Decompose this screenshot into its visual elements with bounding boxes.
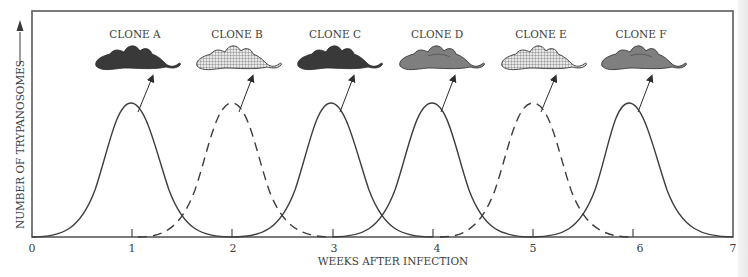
curves <box>32 103 733 237</box>
label-clone-a: CLONE A <box>109 28 161 40</box>
clone-labels: CLONE A CLONE B CLONE C CLONE D CLONE E … <box>109 28 666 40</box>
x-axis-ticks <box>132 229 633 237</box>
arrow-clone-e <box>541 78 555 112</box>
trypanosome-clone-c-icon <box>298 46 383 70</box>
label-clone-e: CLONE E <box>515 28 566 40</box>
x-axis-tick-labels: 0 1 2 3 4 5 6 7 <box>29 242 737 255</box>
x-tick-0: 0 <box>29 242 36 255</box>
label-clone-c: CLONE C <box>309 28 361 40</box>
trypanosome-clone-e-icon <box>502 46 587 70</box>
curve-clone-b <box>138 103 333 237</box>
label-clone-d: CLONE D <box>411 28 463 40</box>
x-tick-4: 4 <box>434 242 441 255</box>
x-tick-7: 7 <box>730 242 737 255</box>
arrow-clone-d <box>441 78 454 112</box>
arrow-clone-c <box>340 78 353 112</box>
trypanosome-clone-b-icon <box>197 46 282 70</box>
label-clone-b: CLONE B <box>211 28 263 40</box>
arrow-clone-b <box>239 78 252 112</box>
arrow-clone-a <box>138 78 152 112</box>
arrow-clone-f <box>638 78 651 112</box>
trypanosome-clone-f-icon <box>602 46 687 70</box>
x-tick-5: 5 <box>530 242 537 255</box>
y-axis-label: NUMBER OF TRYPANOSOMES <box>14 60 26 229</box>
y-axis-label-group: NUMBER OF TRYPANOSOMES <box>14 60 26 229</box>
antigenic-variation-diagram: 0 1 2 3 4 5 6 7 WEEKS AFTER INFECTION NU… <box>0 0 748 277</box>
trypanosome-clone-a-icon <box>96 46 181 70</box>
curve-clone-a <box>32 103 232 237</box>
curve-clone-e <box>440 103 633 237</box>
x-tick-3: 3 <box>331 242 338 255</box>
curve-clone-c <box>232 103 433 237</box>
x-tick-2: 2 <box>230 242 237 255</box>
y-axis-arrow-icon <box>17 20 24 31</box>
x-tick-1: 1 <box>129 242 136 255</box>
x-tick-6: 6 <box>637 242 644 255</box>
x-axis-label: WEEKS AFTER INFECTION <box>318 255 469 267</box>
label-clone-f: CLONE F <box>615 28 666 40</box>
curve-clone-f <box>533 103 733 237</box>
trypanosome-clone-d-icon <box>400 46 485 70</box>
plot-frame <box>32 11 733 237</box>
arrows <box>138 78 651 112</box>
